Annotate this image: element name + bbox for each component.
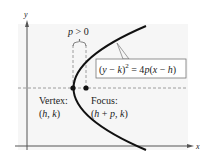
x-axis-label: x: [195, 142, 200, 151]
focus-label: Focus:: [91, 95, 118, 106]
focus-point: [83, 85, 88, 90]
parabola-diagram: y x p > 0 (y − k)2 = 4p(x − h) Vertex: (…: [0, 0, 204, 164]
focus-coordinates: (h + p, k): [91, 108, 128, 120]
vertex-point: [70, 85, 75, 90]
distance-label: p > 0: [67, 26, 89, 37]
y-axis-arrow-icon: [25, 20, 29, 27]
x-axis-arrow-icon: [187, 144, 194, 148]
y-axis-label: y: [23, 10, 28, 19]
vertex-coordinates: (h, k): [39, 108, 60, 120]
equation-text: (y − k)2 = 4p(x − h): [99, 62, 176, 76]
vertex-label: Vertex:: [39, 95, 68, 106]
plot-background: [18, 24, 188, 150]
